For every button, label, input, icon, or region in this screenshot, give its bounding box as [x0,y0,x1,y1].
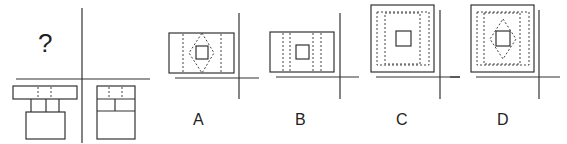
option-a-label: A [193,111,204,128]
puzzle-figure: ? A [0,0,567,144]
option-d[interactable]: D [450,5,560,128]
side-view [97,86,135,139]
front-view [13,86,77,139]
option-d-label: D [497,111,509,128]
option-c-label: C [396,111,408,128]
option-a[interactable]: A [169,13,259,128]
option-b-label: B [295,111,306,128]
three-view-grid: ? [13,8,150,143]
option-b[interactable]: B [270,13,359,128]
question-mark: ? [38,28,52,58]
option-c[interactable]: C [371,5,460,128]
